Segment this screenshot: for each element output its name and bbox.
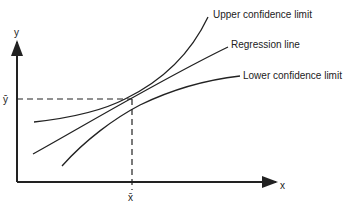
x-axis-label: x: [280, 180, 285, 191]
lower-confidence-curve: [62, 76, 240, 166]
y-axis-label: y: [14, 27, 19, 38]
upper-confidence-curve: [34, 17, 208, 122]
regression-line-label: Regression line: [231, 39, 300, 50]
upper-confidence-label: Upper confidence limit: [213, 9, 312, 20]
lower-confidence-label: Lower confidence limit: [243, 70, 342, 81]
regression-line: [33, 47, 228, 154]
y-mean-label: ȳ: [3, 94, 8, 105]
x-mean-label: x̄: [128, 192, 133, 203]
regression-diagram: y x ȳ x̄ Upper confidence limit Regressi…: [0, 0, 364, 208]
